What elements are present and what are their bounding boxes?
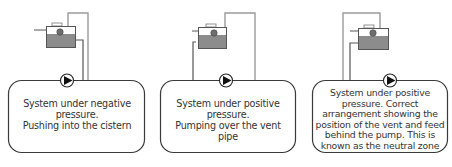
caption-line: System under negative	[14, 98, 140, 109]
vent-pipe	[225, 13, 255, 80]
panel-negative-pressure	[9, 13, 145, 153]
cistern	[34, 23, 76, 48]
feed-pipe	[193, 42, 196, 80]
caption-line: known as the neutral zone	[313, 141, 447, 152]
caption-line: Pumping over the vent	[164, 120, 292, 131]
caption-line: pipe	[164, 131, 292, 142]
caption-line: System under positive	[164, 98, 292, 109]
caption-panel-3: System under positive pressure. Correct …	[313, 88, 447, 152]
cistern	[192, 24, 227, 49]
cistern	[350, 25, 389, 50]
caption-line: Pushing into the cistern	[14, 120, 140, 131]
pump-icon	[220, 74, 233, 87]
caption-panel-2: System under positive pressure. Pumping …	[164, 98, 292, 142]
caption-line: pressure.	[164, 109, 292, 120]
caption-line: System under positive	[313, 88, 447, 99]
pump-icon	[384, 74, 397, 87]
feed-pipe	[76, 40, 83, 80]
caption-line: pressure.	[14, 109, 140, 120]
ball-valve-float-icon	[211, 30, 217, 36]
ball-valve-float-icon	[57, 29, 63, 35]
caption-panel-1: System under negative pressure. Pushing …	[14, 98, 140, 131]
feed-pipe	[350, 43, 359, 80]
ball-valve-float-icon	[370, 30, 376, 36]
pump-icon	[61, 74, 74, 87]
